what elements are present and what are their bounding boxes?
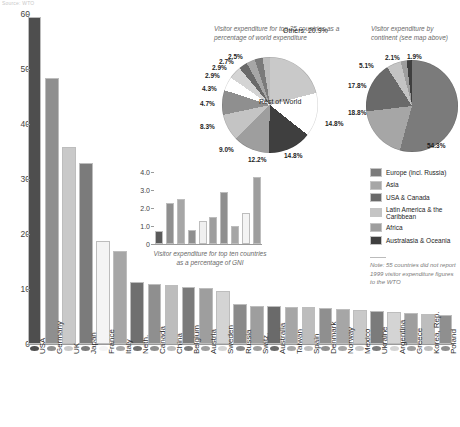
inset-bar [177, 199, 185, 244]
pie2-label-5: 1.9% [407, 53, 422, 60]
pie1-label-7: 4.3% [202, 85, 217, 92]
category-label: Denmark [329, 322, 338, 354]
source-line: Source: WTO [2, 0, 34, 6]
category-label: UK [72, 343, 81, 354]
pie2-label-4: 2.1% [385, 54, 400, 61]
bar [28, 17, 42, 344]
legend-item: Asia [370, 181, 460, 190]
legend-label: Africa [386, 224, 403, 231]
inset-y-tick-label: 0 [128, 241, 150, 248]
pie1-label-1: 14.8% [325, 120, 343, 127]
category-label: Poland [449, 329, 458, 354]
pie2-label-1: 18.8% [348, 109, 366, 116]
bar [62, 147, 76, 344]
pie1-others-label: Others: 20.9% [283, 27, 328, 34]
top25-share-pie [222, 57, 318, 153]
inset-y-tick [151, 208, 154, 209]
inset-gni-chart: 01.02.03.04.0 Visitor expenditure for to… [128, 172, 263, 272]
pie1-label-9: 2.9% [212, 64, 227, 71]
category-label: Austria [209, 329, 218, 354]
pie1-label-6: 4.7% [200, 100, 215, 107]
inset-bar [253, 177, 261, 244]
legend-swatch [370, 223, 382, 232]
category-label: Ukraine [380, 326, 389, 354]
y-tick [26, 14, 30, 15]
inset-bar [220, 192, 228, 244]
category-label: Australia [278, 323, 287, 354]
y-tick [26, 179, 30, 180]
y-tick [26, 124, 30, 125]
legend-swatch [370, 208, 382, 217]
legend-item: Africa [370, 223, 460, 232]
category-label: USA [38, 338, 47, 354]
legend-item: USA & Canada [370, 193, 460, 202]
bar [79, 163, 93, 344]
legend-label: Latin America & the Caribbean [386, 206, 460, 220]
category-label: Germany [55, 321, 64, 354]
category-labels: USAGermanyUKJapanFranceItalyNeth.CanadaC… [26, 352, 454, 427]
legend-item: Australasia & Oceania [370, 236, 460, 245]
inset-bar [199, 221, 207, 244]
category-label: Greece [415, 328, 424, 354]
inset-bar [188, 230, 196, 244]
category-label: Taiwan [295, 329, 304, 354]
inset-bar [155, 231, 163, 244]
inset-bar [166, 203, 174, 244]
category-label: Spain [312, 334, 321, 354]
pie1-label-2: 14.8% [284, 152, 302, 159]
pie1-center-label: Rest of World [259, 98, 301, 105]
category-label: Japan [89, 332, 98, 354]
legend-swatch [370, 168, 382, 177]
inset-y-tick [151, 172, 154, 173]
category-label: Norway [346, 327, 355, 354]
continent-share-pie [366, 60, 458, 152]
inset-y-tick-label: 1.0 [128, 223, 150, 230]
category-label: Mexico [363, 329, 372, 354]
pie1-label-11: 2.5% [228, 53, 243, 60]
category-label: China [175, 333, 184, 354]
legend-label: USA & Canada [386, 194, 430, 201]
category-label: Argentina [398, 320, 407, 354]
category-label: Korea, Rep. [432, 311, 441, 354]
category-label: Belgium [192, 325, 201, 354]
category-label: Canada [158, 326, 167, 354]
category-label: Neth. [141, 335, 150, 354]
footnote: Note: 55 countries did not report 1999 v… [370, 261, 458, 287]
inset-caption: Visitor expenditure for top ten countrie… [150, 250, 270, 268]
y-tick [26, 234, 30, 235]
category-label: Russia [244, 330, 253, 354]
legend-item: Latin America & the Caribbean [370, 206, 460, 220]
pie2-label-2: 17.8% [348, 82, 366, 89]
pie1-label-4: 9.0% [219, 146, 234, 153]
pie2-title: Visitor expenditure by continent (see ma… [371, 24, 459, 42]
inset-y-tick [151, 244, 154, 245]
category-label: Sweden [226, 325, 235, 354]
inset-y-tick [151, 190, 154, 191]
legend-label: Europe (incl. Russia) [386, 169, 446, 176]
y-tick [26, 289, 30, 290]
y-tick [26, 69, 30, 70]
inset-y-tick [151, 226, 154, 227]
legend-label: Asia [386, 181, 399, 188]
continent-legend: Europe (incl. Russia)AsiaUSA & CanadaLat… [370, 168, 460, 248]
inset-y-tick-label: 2.0 [128, 205, 150, 212]
inset-bar [209, 217, 217, 244]
legend-item: Europe (incl. Russia) [370, 168, 460, 177]
inset-bar [231, 226, 239, 244]
inset-plot-area [154, 172, 262, 244]
pie1-label-5: 8.3% [200, 123, 215, 130]
category-label: Italy [124, 339, 133, 354]
inset-bar [242, 213, 250, 244]
bar [45, 78, 59, 344]
inset-y-tick-label: 3.0 [128, 187, 150, 194]
pie1-label-3: 12.2% [248, 156, 266, 163]
legend-swatch [370, 193, 382, 202]
inset-x-axis-line [154, 244, 262, 245]
legend-label: Australasia & Oceania [386, 237, 450, 244]
note-divider [370, 257, 386, 258]
pie1-label-8: 2.9% [205, 72, 220, 79]
pie2-label-0: 54.3% [427, 142, 445, 149]
legend-swatch [370, 181, 382, 190]
inset-y-tick-label: 4.0 [128, 169, 150, 176]
